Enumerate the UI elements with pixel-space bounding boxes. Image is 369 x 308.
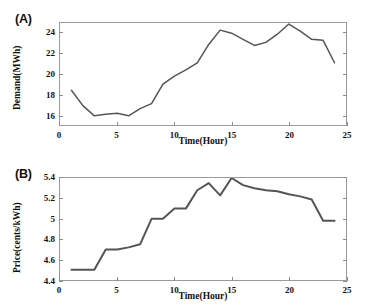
x-tick-label: 10 xyxy=(170,285,179,295)
y-tick-label: 5.4 xyxy=(27,172,55,182)
y-tick-label: 20 xyxy=(27,69,55,79)
x-tick xyxy=(232,277,233,281)
x-tick xyxy=(174,277,175,281)
panel-a-label: (A) xyxy=(15,12,32,26)
x-tick-label: 5 xyxy=(114,285,119,295)
y-tick-label: 4.6 xyxy=(27,255,55,265)
figure-container: (A) 05101520251618202224 Time(Hour) Dema… xyxy=(0,0,369,308)
y-tick xyxy=(59,95,63,96)
x-tick-label: 25 xyxy=(343,130,352,140)
y-tick-right xyxy=(343,281,347,282)
x-tick-label: 15 xyxy=(227,285,236,295)
y-tick-label: 4.8 xyxy=(27,234,55,244)
y-tick-label: 16 xyxy=(27,111,55,121)
y-axis-title-b: Price(cents/kWh) xyxy=(12,202,22,273)
x-tick xyxy=(117,277,118,281)
x-axis-title-b: Time(Hour) xyxy=(179,291,228,301)
y-tick-label: 4.4 xyxy=(27,276,55,286)
x-tick-label: 20 xyxy=(285,285,294,295)
x-tick xyxy=(289,122,290,126)
y-tick xyxy=(59,281,63,282)
demand-line-series xyxy=(60,23,346,125)
x-axis-title-a: Time(Hour) xyxy=(179,136,228,146)
x-tick-label: 10 xyxy=(170,130,179,140)
y-tick xyxy=(59,53,63,54)
x-tick-label: 25 xyxy=(343,285,352,295)
y-tick-right xyxy=(343,177,347,178)
y-tick xyxy=(59,177,63,178)
x-tick xyxy=(232,122,233,126)
y-tick-right xyxy=(343,53,347,54)
y-tick xyxy=(59,260,63,261)
y-tick-label: 22 xyxy=(27,48,55,58)
y-tick-right xyxy=(343,95,347,96)
x-tick-label: 20 xyxy=(285,130,294,140)
y-tick-right xyxy=(343,239,347,240)
y-tick-right xyxy=(343,260,347,261)
y-tick-label: 5 xyxy=(27,214,55,224)
x-tick-label: 5 xyxy=(114,130,119,140)
y-tick-right xyxy=(343,198,347,199)
y-axis-title-a: Demand(MWh) xyxy=(12,46,22,110)
y-tick-label: 24 xyxy=(27,27,55,37)
plot-area-a xyxy=(59,22,347,126)
panel-a-demand: (A) 05101520251618202224 Time(Hour) Dema… xyxy=(0,0,369,155)
x-tick xyxy=(289,277,290,281)
y-tick-right xyxy=(343,219,347,220)
y-tick xyxy=(59,198,63,199)
y-tick xyxy=(59,239,63,240)
x-tick xyxy=(347,122,348,126)
x-tick xyxy=(117,122,118,126)
y-tick xyxy=(59,32,63,33)
y-tick-right xyxy=(343,74,347,75)
y-tick-label: 5.2 xyxy=(27,193,55,203)
x-tick-label: 0 xyxy=(57,130,62,140)
x-tick xyxy=(59,122,60,126)
y-tick xyxy=(59,116,63,117)
panel-b-price: (B) 05101520254.44.64.855.25.4 Time(Hour… xyxy=(0,153,369,308)
plot-area-b xyxy=(59,177,347,281)
x-tick-label: 15 xyxy=(227,130,236,140)
x-tick xyxy=(347,277,348,281)
y-tick-right xyxy=(343,116,347,117)
y-tick-right xyxy=(343,32,347,33)
y-tick-label: 18 xyxy=(27,90,55,100)
y-tick xyxy=(59,219,63,220)
y-tick xyxy=(59,74,63,75)
x-tick xyxy=(174,122,175,126)
x-tick-label: 0 xyxy=(57,285,62,295)
price-line-series xyxy=(60,178,346,280)
